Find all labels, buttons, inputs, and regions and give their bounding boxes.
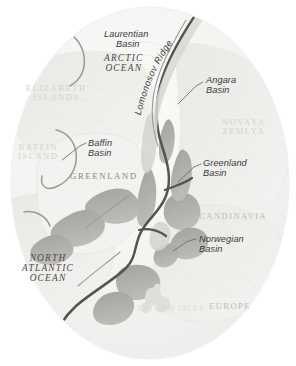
map-graphic: Lomonosov Ridge (0, 0, 296, 366)
map-canvas: Lomonosov Ridge Laurentian Basin ARCTIC … (0, 0, 296, 366)
